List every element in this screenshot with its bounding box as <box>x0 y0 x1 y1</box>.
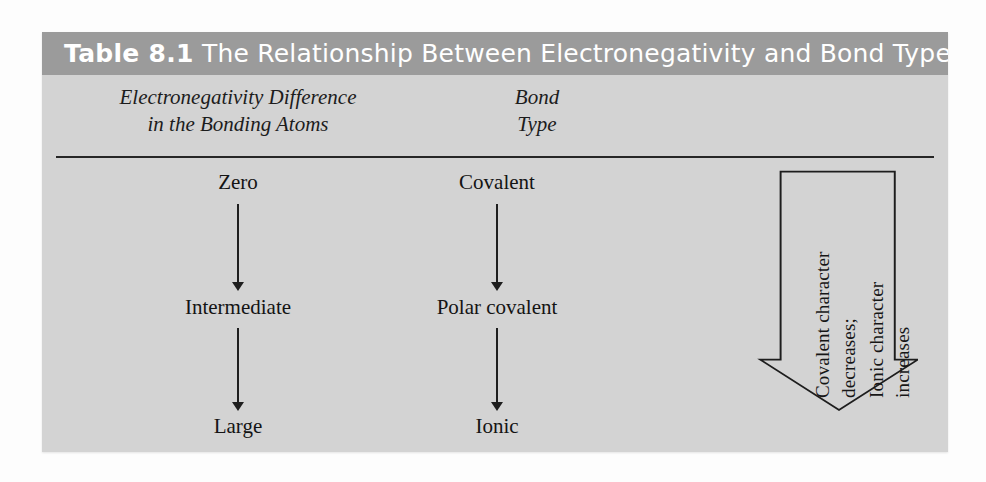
table-number-label: Table 8.1 <box>64 39 194 68</box>
column-header-line-2: in the Bonding Atoms <box>78 111 398 138</box>
arrow-stem <box>237 204 239 284</box>
arrow-stem <box>237 328 239 404</box>
table-cell-difference-intermediate: Intermediate <box>128 295 348 319</box>
column-header-bond-type: Bond Type <box>422 84 652 138</box>
block-arrow-caption-line-3: Ionic character <box>866 282 888 398</box>
block-arrow-caption-line-4: increases <box>892 327 914 398</box>
column-header-line-2: Type <box>422 111 652 138</box>
table-cell-difference-zero: Zero <box>128 170 348 194</box>
down-arrow-icon <box>490 204 504 292</box>
block-arrow-caption: Covalent character decreases; Ionic char… <box>718 170 918 410</box>
table-title: Table 8.1 The Relationship Between Elect… <box>64 36 948 71</box>
header-divider-rule <box>56 156 934 158</box>
down-arrow-icon <box>231 328 245 412</box>
down-arrow-icon <box>490 328 504 412</box>
table-title-text: The Relationship Between Electronegativi… <box>202 39 948 68</box>
column-header-electronegativity-difference: Electronegativity Difference in the Bond… <box>78 84 398 138</box>
arrow-head <box>491 282 503 291</box>
block-arrow-caption-line-1: Covalent character <box>812 251 834 398</box>
table-cell-difference-large: Large <box>128 414 348 438</box>
down-arrow-icon <box>231 204 245 292</box>
arrow-head <box>232 282 244 291</box>
block-arrow-trend-indicator: Covalent character decreases; Ionic char… <box>718 170 918 445</box>
arrow-head <box>491 402 503 411</box>
table-cell-bond-covalent: Covalent <box>372 170 622 194</box>
column-header-line-1: Electronegativity Difference <box>120 85 357 109</box>
arrow-stem <box>496 328 498 404</box>
arrow-head <box>232 402 244 411</box>
block-arrow-caption-line-2: decreases; <box>838 318 860 398</box>
table-cell-bond-ionic: Ionic <box>372 414 622 438</box>
table-title-bar: Table 8.1 The Relationship Between Elect… <box>42 32 948 75</box>
page-background: Table 8.1 The Relationship Between Elect… <box>0 0 986 482</box>
column-header-line-1: Bond <box>515 85 559 109</box>
table-cell-bond-polar-covalent: Polar covalent <box>372 295 622 319</box>
arrow-stem <box>496 204 498 284</box>
table-panel: Table 8.1 The Relationship Between Elect… <box>42 32 948 452</box>
